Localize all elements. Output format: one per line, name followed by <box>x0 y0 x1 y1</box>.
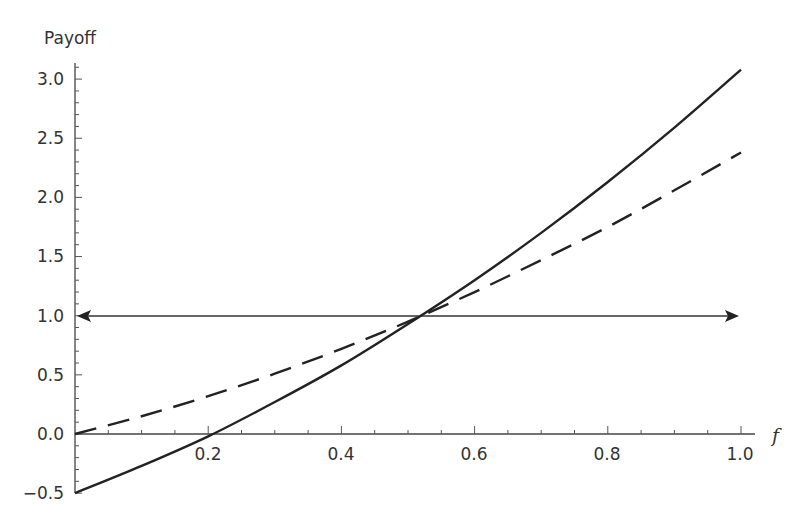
y-tick-label: 1.0 <box>37 306 64 326</box>
solid-curve <box>75 70 741 494</box>
y-tick-label: 0.0 <box>37 424 64 444</box>
x-tick-label: 0.6 <box>460 444 487 464</box>
y-tick-label: 2.5 <box>37 128 64 148</box>
x-tick-label: 0.8 <box>593 444 620 464</box>
y-ticks <box>75 67 82 493</box>
x-ticks <box>108 426 741 434</box>
x-axis-title: f <box>770 424 782 446</box>
x-tick-label: 0.2 <box>194 444 221 464</box>
x-tick-label: 1.0 <box>726 444 753 464</box>
y-tick-label: −0.5 <box>23 483 64 503</box>
x-tick-label: 0.4 <box>327 444 354 464</box>
y-tick-label: 1.5 <box>37 246 64 266</box>
y-tick-label: 0.5 <box>37 365 64 385</box>
y-tick-label: 2.0 <box>37 187 64 207</box>
y-tick-label: 3.0 <box>37 69 64 89</box>
payoff-chart: Payoff f 3.0 2.5 2.0 1.5 1.0 0.5 0.0 −0.… <box>0 0 812 522</box>
dashed-curve <box>75 152 741 434</box>
y-axis-title: Payoff <box>44 28 97 48</box>
